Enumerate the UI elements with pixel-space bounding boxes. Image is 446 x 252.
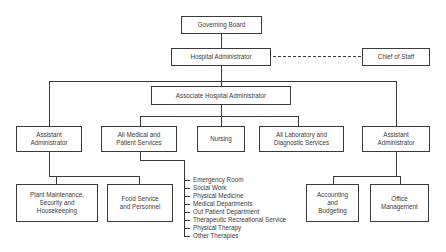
list-item: Physical Medicine xyxy=(193,192,286,200)
list-item: Out Patient Department xyxy=(193,208,286,216)
node-all-medical-patient-services: All Medical and Patient Services xyxy=(101,126,177,152)
node-assistant-administrator-left: Assistant Administrator xyxy=(16,126,82,152)
node-label: Assistant Administrator xyxy=(377,131,414,147)
node-nursing: Nursing xyxy=(197,126,245,152)
node-office-management: Office Management xyxy=(370,184,429,222)
node-food-service: Food Service and Personnel xyxy=(107,184,173,222)
list-item: Social Work xyxy=(193,184,286,192)
node-label: Nursing xyxy=(210,135,232,143)
list-item: Other Therapies xyxy=(193,232,286,240)
node-all-laboratory-diagnostic: All Laboratory and Diagnostic Services xyxy=(259,126,344,152)
node-label: Office Management xyxy=(381,195,418,211)
node-assistant-administrator-right: Assistant Administrator xyxy=(362,126,430,152)
node-hospital-administrator: Hospital Administrator xyxy=(171,48,271,66)
node-label: Assistant Administrator xyxy=(30,131,67,147)
list-item: Medical Departments xyxy=(193,200,286,208)
node-label: All Laboratory and Diagnostic Services xyxy=(274,131,329,147)
node-associate-hospital-administrator: Associate Hospital Administrator xyxy=(151,86,291,105)
list-item: Therapeutic Recreational Service xyxy=(193,216,286,224)
list-item: Emergency Room xyxy=(193,176,286,184)
node-label: Governing Board xyxy=(198,21,246,29)
node-label: Hospital Administrator xyxy=(190,53,251,61)
node-label: Food Service and Personnel xyxy=(120,195,161,211)
node-label: All Medical and Patient Services xyxy=(116,131,162,147)
medical-services-list: Emergency Room Social Work Physical Medi… xyxy=(193,176,286,240)
node-plant-maintenance: Plant Maintenance, Security and Housekee… xyxy=(16,184,98,222)
node-label: Plant Maintenance, Security and Housekee… xyxy=(30,191,84,215)
node-governing-board: Governing Board xyxy=(181,16,262,34)
node-label: Accounting and Budgeting xyxy=(317,191,348,215)
list-item: Physical Therapy xyxy=(193,224,286,232)
node-accounting-budgeting: Accounting and Budgeting xyxy=(306,184,359,222)
node-label: Associate Hospital Administrator xyxy=(176,92,266,100)
node-label: Chief of Staff xyxy=(378,53,414,61)
node-chief-of-staff: Chief of Staff xyxy=(362,48,430,66)
